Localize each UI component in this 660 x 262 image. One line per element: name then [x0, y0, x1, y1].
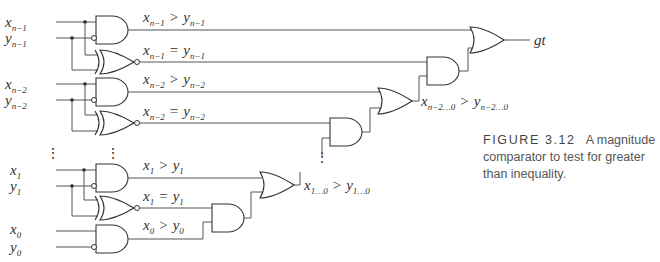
- ellipsis-gates: ⋮: [106, 146, 120, 161]
- label-gt-n-2: xn−2>yn−2: [142, 71, 205, 90]
- or-gate-gt-output: [470, 27, 504, 53]
- label-gt-1: x1>y1: [142, 157, 184, 176]
- combine-chain: x1…0>y1…0 xn−2…0>yn−2…0 gt: [212, 27, 547, 232]
- input-label-x-0: x0: [9, 221, 22, 240]
- xnor-gate-eq-1: [100, 196, 134, 220]
- label-eq-n-2: xn−2=yn−2: [142, 103, 205, 122]
- or-gate-gt-n-2-0: [378, 88, 412, 114]
- and-gate-gt-n-1: [96, 16, 128, 44]
- or-gate-gt-1-0: [260, 172, 294, 198]
- bit-slice-0: x0 y0 x0>y0: [8, 217, 212, 258]
- and-gate-eq1-gt0: [212, 204, 244, 232]
- output-label-gt: gt: [534, 32, 547, 48]
- and-gate-eq-n-2-chain: [330, 118, 362, 146]
- and-gate-eq-n-1-chain: [427, 57, 459, 85]
- and-gate-gt-0: [96, 225, 128, 253]
- magnitude-comparator-diagram: xn−1 yn−1 xn−1>yn−1 xn−1=yn−1 xn−2 yn−2 …: [0, 0, 660, 262]
- label-gt-0: x0>y0: [142, 217, 184, 236]
- label-eq-n-1: xn−1=yn−1: [142, 42, 205, 61]
- bit-slice-n-1: xn−1 yn−1 xn−1>yn−1 xn−1=yn−1: [3, 9, 472, 74]
- and-gate-gt-1: [96, 164, 128, 192]
- label-gt-1-0: x1…0>y1…0: [303, 177, 370, 196]
- input-label-y-0: y0: [8, 239, 22, 258]
- label-gt-n-1: xn−1>yn−1: [142, 9, 205, 28]
- figure-caption: FIGURE 3.12A magnitude comparator to tes…: [483, 132, 658, 183]
- xnor-gate-eq-n-1: [100, 50, 134, 74]
- ellipsis-inputs: ⋮: [46, 146, 60, 161]
- bit-slice-n-2: xn−2 yn−2 xn−2>yn−2 xn−2=yn−2: [3, 71, 380, 135]
- label-eq-1: x1=y1: [142, 188, 184, 207]
- label-gt-n-2-0: xn−2…0>yn−2…0: [420, 93, 508, 112]
- xnor-gate-eq-n-2: [100, 111, 134, 135]
- figure-number: FIGURE 3.12: [483, 133, 576, 147]
- and-gate-gt-n-2: [96, 78, 128, 106]
